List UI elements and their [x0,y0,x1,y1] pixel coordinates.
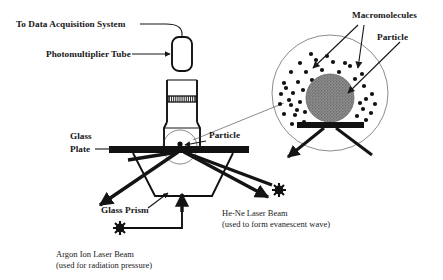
starburst-icon [272,183,286,197]
data-acquisition-label: To Data Acquisition System [16,19,126,29]
macromolecules-label: Macromolecules [352,10,417,20]
particle-dot [177,141,182,146]
signal-wire [140,24,182,37]
hene-laser-source [272,183,286,197]
photomultiplier-tube-label: Photomultiplier Tube [46,49,131,59]
particle-leader-arrow [185,141,206,145]
inset-substrate-bar [297,122,364,128]
filter-band [168,96,196,102]
detector-column [140,24,200,147]
macromolecules-leader-a [313,25,358,68]
starburst-icon [113,221,127,235]
glass-plate-label-line2: Plate [70,144,90,154]
inset-beam-left [288,128,324,157]
inset-magnified-view [272,35,388,157]
inset-particle-sphere [306,74,354,122]
inset-particle-leader [348,42,400,93]
glass-prism-body [133,153,233,196]
glass-prism-label: Glass Prism [101,205,149,215]
diagram-canvas: To Data Acquisition System Photomultipli… [0,0,443,280]
particle-main-label: Particle [209,130,240,140]
macromolecules-leader-b [358,25,364,68]
reflected-beam-right [184,152,268,197]
glass-plate-label-line1: Glass [70,131,92,141]
photomultiplier-tube-body [172,37,192,71]
inset-beam-right [336,128,372,155]
inset-particle-label: Particle [377,32,408,42]
argon-laser-label-line1: Argon Ion Laser Beam [56,249,134,259]
hene-laser-label-line2: (used to form evanescent wave) [222,219,330,229]
hene-incident-beam [184,152,272,185]
diagram-figure: To Data Acquisition System Photomultipli… [0,0,443,280]
argon-laser-label-line2: (used for radiation pressure) [56,260,152,270]
label-leaders [95,25,400,208]
glass-plate-bar [109,146,249,153]
argon-laser-source [113,221,127,235]
hene-laser-label-line1: He-Ne Laser Beam [222,208,288,218]
